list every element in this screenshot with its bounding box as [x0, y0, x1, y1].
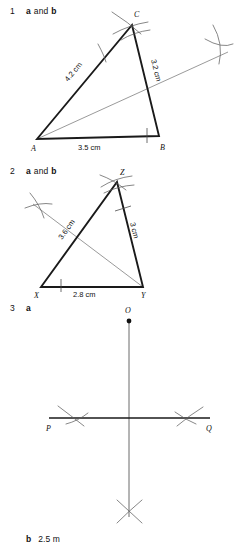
construction-arc-right-1	[177, 407, 203, 426]
figure-3-perpendicular-construction: O P Q	[0, 295, 245, 540]
vertex-label-b: B	[160, 143, 165, 152]
point-label-p: P	[45, 424, 51, 433]
side-label-ac: 4.2 cm	[63, 60, 84, 83]
side-label-xz: 3.6 cm	[56, 218, 77, 242]
answer-3b-label: b	[26, 534, 31, 544]
figure-2-triangle-xyz: X Y Z 3.6 cm 3 cm 2.8 cm	[0, 160, 245, 295]
point-label-q: Q	[206, 424, 212, 433]
construction-tick-ac	[98, 44, 106, 62]
point-label-o: O	[125, 306, 131, 315]
vertex-label-a: A	[30, 144, 36, 153]
construction-arc-left-1	[58, 406, 84, 426]
vertex-label-c: C	[134, 10, 140, 19]
vertex-label-z: Z	[120, 168, 125, 177]
answer-3b: b2.5 m	[26, 534, 60, 544]
answer-3b-value: 2.5 m	[38, 534, 60, 544]
triangle-abc-outline	[37, 25, 159, 139]
figure-1-triangle-abc: A B C 4.2 cm 3.2 cm 3.5 cm	[0, 0, 245, 160]
side-label-cb: 3.2 cm	[149, 58, 163, 82]
side-label-ab: 3.5 cm	[78, 143, 101, 152]
point-o-dot	[127, 319, 132, 324]
angle-bisector-ray	[37, 52, 228, 139]
worksheet-page: 1aandb A B C 4.2 cm 3.2 cm	[0, 0, 245, 555]
